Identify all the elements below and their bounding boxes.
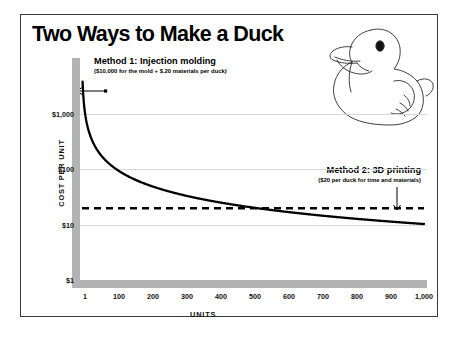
x-tick-label-900: 900: [385, 292, 397, 301]
x-tick-label-1: 1: [83, 292, 87, 301]
series-line-method-1: [72, 58, 427, 288]
x-tick-label-200: 200: [147, 292, 159, 301]
x-axis-title: UNITS: [190, 310, 216, 319]
x-tick-label-600: 600: [283, 292, 295, 301]
x-tick-label-700: 700: [317, 292, 329, 301]
page-title: Two Ways to Make a Duck: [32, 22, 283, 47]
x-tick-label-800: 800: [351, 292, 363, 301]
x-tick-label-100: 100: [113, 292, 125, 301]
x-tick-label-500: 500: [249, 292, 261, 301]
y-tick-label-1000: $1,000: [52, 109, 74, 118]
x-tick-label-400: 400: [215, 292, 227, 301]
y-axis-title: COST PER UNIT: [57, 139, 66, 206]
page-canvas: Two Ways to Make a Duck: [0, 0, 458, 343]
x-tick-label-300: 300: [181, 292, 193, 301]
plot-area: $1,000 $100 $10 $1 1 100 200 300 400 500…: [72, 58, 427, 288]
figure-frame: Two Ways to Make a Duck: [20, 14, 438, 317]
x-tick-label-1000: 1,000: [415, 292, 433, 301]
